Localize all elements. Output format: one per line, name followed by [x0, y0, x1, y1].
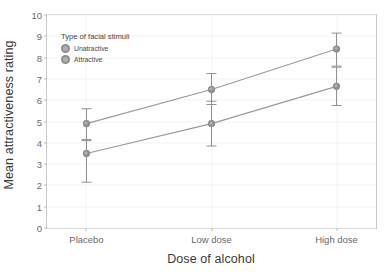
- x-axis-title: Dose of alcohol: [46, 252, 376, 266]
- marker-highlight: [210, 122, 213, 125]
- legend: Type of facial stimuli UnatractiveAttrac…: [61, 32, 129, 66]
- x-tick-mark: [86, 228, 87, 231]
- attractiveness-rating-line-chart: Mean attractiveness rating 012345678910 …: [0, 0, 387, 274]
- y-tick-label: 6: [37, 95, 42, 106]
- legend-item-label: Attractive: [74, 56, 102, 63]
- marker-highlight: [335, 47, 338, 50]
- y-tick-label: 7: [37, 73, 42, 84]
- plot-inner: 012345678910 PlaceboLow doseHigh dose Ty…: [47, 15, 376, 228]
- legend-item-label: Unatractive: [74, 45, 108, 52]
- y-tick-label: 3: [37, 159, 42, 170]
- legend-title: Type of facial stimuli: [61, 32, 129, 41]
- y-axis-title: Mean attractiveness rating: [0, 0, 18, 252]
- legend-swatch-icon: [61, 55, 70, 64]
- y-tick-label: 2: [37, 180, 42, 191]
- legend-items: UnatractiveAttractive: [61, 44, 129, 64]
- x-tick-label: Low dose: [191, 234, 232, 245]
- y-tick-label: 10: [31, 10, 42, 21]
- error-bar: [82, 140, 92, 183]
- y-tick-label: 8: [37, 52, 42, 63]
- legend-item-2[interactable]: Attractive: [61, 55, 129, 64]
- y-tick-label: 1: [37, 201, 42, 212]
- x-tick-mark: [336, 228, 337, 231]
- legend-item-1[interactable]: Unatractive: [61, 44, 129, 53]
- marker-highlight: [210, 88, 213, 91]
- x-tick-label: Placebo: [69, 234, 103, 245]
- plot-panel: 012345678910 PlaceboLow doseHigh dose Ty…: [46, 14, 377, 229]
- y-tick-label: 5: [37, 116, 42, 127]
- x-tick-mark: [211, 228, 212, 231]
- legend-swatch-icon: [61, 44, 70, 53]
- y-tick-label: 9: [37, 31, 42, 42]
- marker-highlight: [84, 122, 87, 125]
- x-tick-label: High dose: [315, 234, 358, 245]
- marker-highlight: [335, 84, 338, 87]
- marker-highlight: [84, 151, 87, 154]
- y-tick-label: 0: [37, 223, 42, 234]
- y-tick-label: 4: [37, 137, 42, 148]
